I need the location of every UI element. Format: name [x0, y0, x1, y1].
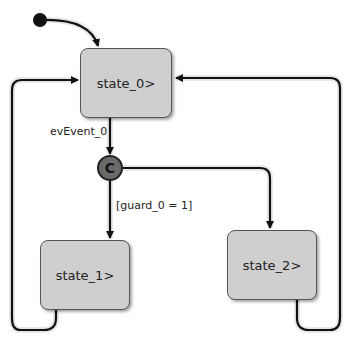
state-2[interactable]: state_2>	[227, 230, 317, 300]
state-0[interactable]: state_0>	[80, 48, 172, 118]
initial-pseudostate-icon	[33, 13, 47, 27]
guard-label: [guard_0 = 1]	[116, 199, 192, 212]
event-label: evEvent_0	[50, 125, 107, 138]
transition-to-state_2	[122, 168, 270, 228]
state-1[interactable]: state_1>	[40, 240, 130, 310]
junction-label: C	[105, 160, 115, 176]
state-1-label: state_1>	[56, 268, 115, 283]
state-0-label: state_0>	[97, 76, 156, 91]
state-2-label: state_2>	[243, 258, 302, 273]
